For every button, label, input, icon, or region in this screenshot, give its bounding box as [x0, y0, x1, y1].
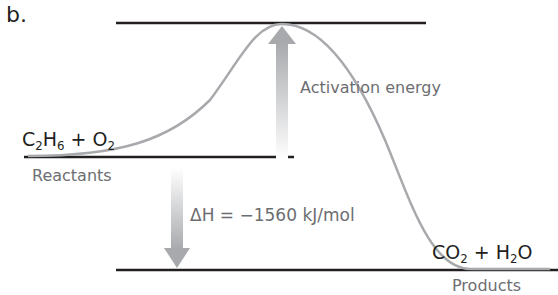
enthalpy-arrow: [164, 168, 190, 268]
activation-energy-label: Activation energy: [300, 78, 441, 97]
products-formula: CO2 + H2O: [432, 241, 533, 263]
panel-label: b.: [6, 2, 27, 27]
products-label: Products: [452, 276, 521, 295]
reactants-label: Reactants: [32, 166, 112, 185]
activation-energy-arrow: [268, 26, 296, 160]
enthalpy-label: ΔH = −1560 kJ/mol: [190, 205, 355, 225]
reactants-formula: C2H6 + O2: [22, 128, 115, 150]
